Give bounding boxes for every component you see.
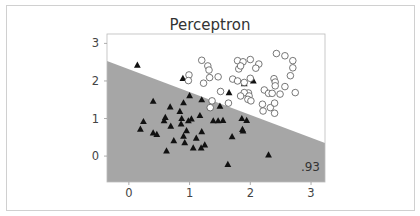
circle-marker [273, 50, 280, 57]
decision-regions [107, 34, 325, 182]
score-annotation: .93 [301, 160, 320, 174]
x-tick-label: 1 [186, 186, 193, 200]
circle-marker [206, 74, 213, 81]
circle-marker [271, 110, 278, 117]
circle-marker [248, 98, 255, 105]
circle-marker [209, 98, 216, 105]
circle-marker [259, 101, 266, 108]
circle-marker [269, 90, 276, 97]
circle-marker [206, 67, 213, 74]
y-tick-label: 2 [92, 74, 99, 88]
circle-marker [277, 91, 284, 98]
circle-marker [282, 83, 289, 90]
circle-marker [290, 57, 297, 64]
circle-marker [215, 74, 222, 81]
circle-marker [225, 100, 232, 107]
circle-marker [241, 79, 248, 86]
x-tick-label: 0 [125, 186, 132, 200]
circle-marker [271, 100, 278, 107]
circle-marker [287, 72, 294, 79]
circle-marker [282, 52, 289, 59]
circle-marker [234, 78, 241, 85]
circle-marker [290, 65, 297, 72]
scatter-plot: 01230123.93 [0, 0, 420, 216]
circle-marker [272, 83, 279, 90]
circle-marker [198, 57, 205, 64]
circle-marker [185, 77, 192, 84]
circle-marker [237, 63, 244, 70]
circle-marker [207, 104, 214, 111]
y-tick-label: 1 [92, 112, 99, 126]
circle-marker [260, 108, 267, 115]
y-tick-label: 0 [92, 149, 99, 163]
x-tick-label: 3 [307, 186, 314, 200]
circle-marker [292, 89, 299, 96]
y-tick-label: 3 [92, 36, 99, 50]
circle-marker [200, 80, 207, 87]
x-tick-label: 2 [247, 186, 254, 200]
circle-marker [247, 75, 254, 82]
circle-marker [247, 56, 254, 63]
circle-marker [237, 93, 244, 100]
circle-marker [217, 88, 224, 95]
circle-marker [252, 65, 259, 72]
